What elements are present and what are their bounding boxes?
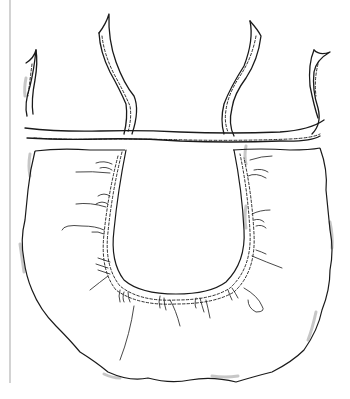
- skirt-outline: [22, 148, 332, 382]
- waistband: [25, 120, 324, 142]
- shadow-strokes: [20, 78, 332, 378]
- apron-drawing: [0, 0, 350, 399]
- right-tie-strap: [310, 50, 331, 134]
- left-tie-strap: [26, 50, 37, 116]
- right-shoulder-strap: [222, 21, 261, 136]
- left-shoulder-strap: [99, 14, 137, 134]
- apron-illustration: [0, 0, 350, 399]
- bib-opening: [103, 150, 254, 304]
